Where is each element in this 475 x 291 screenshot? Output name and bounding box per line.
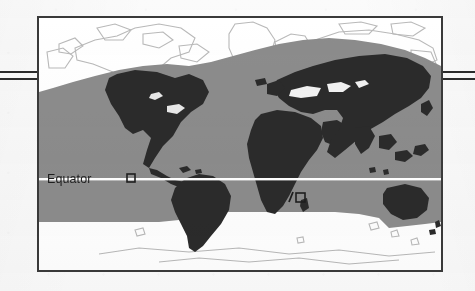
equator-label: Equator xyxy=(47,173,91,186)
map-canvas xyxy=(39,18,441,270)
world-map-svg xyxy=(39,18,441,270)
rule-right-bottom xyxy=(441,78,475,80)
equator-line xyxy=(39,178,441,180)
rule-left-bottom xyxy=(0,78,40,80)
rule-left-top xyxy=(0,71,40,73)
map-frame: Equator xyxy=(37,16,443,272)
rule-right-top xyxy=(441,71,475,73)
